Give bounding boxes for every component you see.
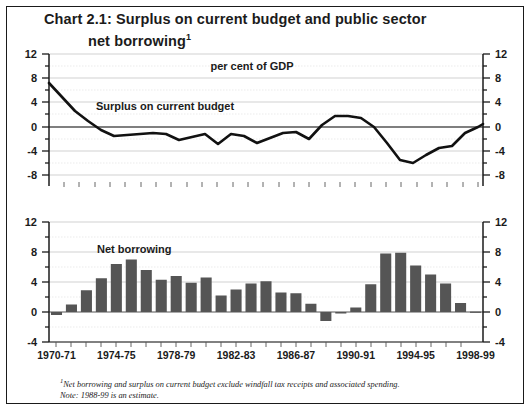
xtick-label: 1982-83 [217,349,256,361]
bar [186,283,197,312]
top-chart-right-ticks [483,54,490,175]
top-chart-ytick-neg8-right: -8 [495,169,505,181]
bottom-chart-ytick-4-left: 4 [31,276,38,288]
top-chart-series-label: Surplus on current budget [96,100,234,112]
top-chart-ytick-0-left: 0 [31,121,37,133]
bar [171,276,182,312]
xtick-label: 1974-75 [97,349,136,361]
bar [305,304,316,312]
bottom-chart-series-label: Net borrowing [97,243,172,255]
top-chart-units-label: per cent of GDP [210,60,293,72]
footnote-line-2: Note: 1988-99 is an estimate. [60,390,510,402]
xtick-label: 1994-95 [396,349,435,361]
bar [410,266,421,313]
bottom-chart-ytick-8-right: 8 [495,246,501,258]
bottom-chart-ytick-12-left: 12 [25,216,37,228]
xtick-label: 1998-99 [456,349,495,361]
top-chart-left-ticks [42,54,49,175]
bar [290,293,301,312]
bottom-chart-ytick-neg4-right: -4 [495,336,506,348]
top-chart-ytick-8-right: 8 [495,72,501,84]
bar [320,312,331,321]
top-chart-ytick-4-left: 4 [31,96,38,108]
bar [111,264,122,312]
footnote-line-1-text: Net borrowing and surplus on current bud… [63,380,399,389]
top-chart-ytick-12-right: 12 [495,48,507,60]
top-chart-ytick-12-left: 12 [25,48,37,60]
bottom-chart-bars: 12 8 4 0 -4 12 8 4 0 -4 [25,216,508,361]
bottom-chart-ytick-0-right: 0 [495,306,501,318]
bottom-chart-right-ticks [483,222,490,342]
bar [66,305,77,313]
top-chart-ytick-neg8-left: -8 [27,169,37,181]
top-chart-minor-gridlines [49,66,483,163]
bar [126,260,137,313]
bar [470,312,481,313]
bottom-chart-ytick-12-right: 12 [495,216,507,228]
bottom-chart-ytick-0-left: 0 [31,306,37,318]
bar [440,284,451,313]
bar [350,308,361,313]
bottom-chart-xticks [56,342,461,347]
bar [275,293,286,313]
bar [81,290,92,312]
bar [260,281,271,312]
xtick-label: 1970-71 [37,349,76,361]
top-chart-ytick-neg4-right: -4 [495,145,506,157]
bar [380,254,391,313]
bar [216,296,227,313]
top-chart-gridlines [49,54,483,175]
bar [395,253,406,312]
bar [156,280,167,312]
bar [425,275,436,313]
top-chart-ytick-0-right: 0 [495,121,501,133]
top-chart-ytick-neg4-left: -4 [27,145,38,157]
footnote-line-1: 1Net borrowing and surplus on current bu… [60,375,510,390]
bottom-chart-ytick-4-right: 4 [495,276,502,288]
bar [231,290,242,313]
bar [365,284,376,312]
top-chart-bottom-ticks [64,182,478,187]
bar [246,284,257,313]
bar [455,303,466,312]
top-chart-line: 12 8 4 0 -4 -8 12 8 4 0 -4 -8 per cent o… [25,48,508,187]
bar [335,312,346,314]
top-chart-ytick-8-left: 8 [31,72,37,84]
chart-page: Chart 2.1: Surplus on current budget and… [0,0,532,415]
xtick-label: 1978-79 [157,349,196,361]
xtick-label: 1986-87 [277,349,316,361]
footnote: 1Net borrowing and surplus on current bu… [60,375,510,402]
bottom-chart-left-ticks [42,222,49,342]
bar [96,278,107,312]
bottom-chart-ytick-8-left: 8 [31,246,37,258]
bottom-chart-xtick-labels: 1970-711974-751978-791982-831986-871990-… [37,349,495,361]
bar-series-net-borrowing [51,253,481,321]
top-chart-ytick-4-right: 4 [495,96,502,108]
bar [51,312,62,315]
charts-svg: 12 8 4 0 -4 -8 12 8 4 0 -4 -8 per cent o… [0,0,532,415]
bottom-chart-ytick-neg4-left: -4 [27,336,38,348]
bar [201,278,212,313]
xtick-label: 1990-91 [337,349,376,361]
bar [141,270,152,312]
